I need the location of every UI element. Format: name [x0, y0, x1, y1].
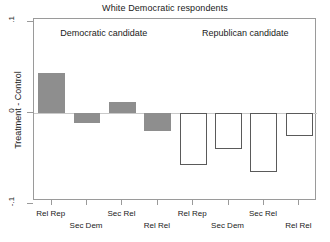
bar: [38, 73, 65, 113]
x-axis-tick-label: Sec Rel: [107, 209, 135, 218]
x-axis-tick: [86, 200, 87, 205]
bar: [109, 102, 136, 113]
chart-figure: White Democratic respondents Treatment -…: [0, 0, 330, 242]
x-axis-tick: [121, 200, 122, 205]
panel-caption-democratic: Democratic candidate: [60, 28, 147, 38]
x-axis-tick: [263, 200, 264, 205]
chart-title: White Democratic respondents: [0, 3, 330, 13]
y-axis-tick-label: 0: [7, 96, 16, 126]
bar: [74, 113, 101, 123]
x-axis-tick: [192, 200, 193, 205]
x-axis-tick: [51, 200, 52, 205]
x-axis-tick: [298, 200, 299, 205]
bar: [144, 113, 171, 131]
y-axis-tick-label: .1: [7, 5, 16, 35]
bar: [250, 113, 277, 172]
y-axis-tick-label: -.1: [7, 187, 16, 217]
x-axis-tick-label: Rel Rel: [285, 221, 311, 230]
x-axis-tick-label: Rel Rep: [36, 209, 65, 218]
x-axis-tick: [228, 200, 229, 205]
x-axis-tick-label: Sec Dem: [70, 221, 103, 230]
panel-caption-republican: Republican candidate: [202, 28, 289, 38]
bar: [286, 113, 313, 136]
bar: [180, 113, 207, 165]
x-axis-tick-label: Rel Rep: [178, 209, 207, 218]
x-axis-tick: [157, 200, 158, 205]
x-axis-tick-label: Rel Rel: [144, 221, 170, 230]
plot-area: [33, 18, 316, 200]
x-axis-tick-label: Sec Dem: [211, 221, 244, 230]
bar: [215, 113, 242, 149]
x-axis-tick-label: Sec Rel: [249, 209, 277, 218]
y-axis-tick: [27, 203, 33, 204]
